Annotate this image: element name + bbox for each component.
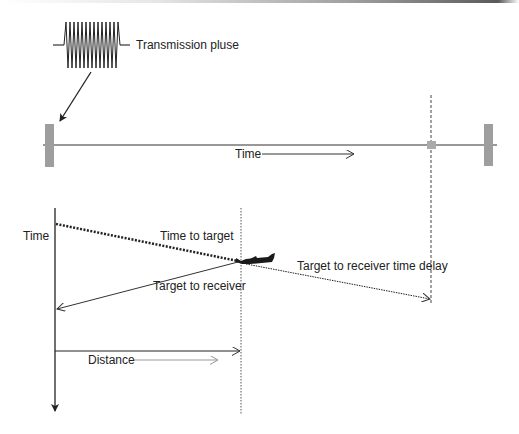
distance-label: Distance — [88, 353, 135, 367]
transmitter-antenna-icon — [45, 124, 54, 167]
time-label-top: Time — [235, 147, 261, 161]
airplane-icon — [236, 253, 275, 264]
pulse-to-transmitter-arrow — [60, 72, 91, 121]
time-to-target-label: Time to target — [160, 229, 234, 243]
transmission-pulse-label: Transmission pluse — [136, 38, 239, 52]
time-axis-label: Time — [23, 229, 49, 243]
target-to-receiver-delay-label: Target to receiver time delay — [297, 259, 448, 273]
delay-marker-block — [427, 141, 436, 149]
sine-burst-icon — [53, 22, 130, 68]
radar-timing-diagram — [0, 0, 519, 434]
receiver-antenna-icon — [484, 124, 493, 166]
target-to-receiver-label: Target to receiver — [153, 279, 246, 293]
